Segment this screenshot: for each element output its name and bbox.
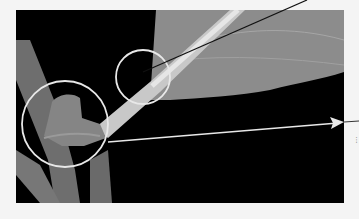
figure: ⋮ xyxy=(0,0,359,219)
petiole-leader-line xyxy=(143,0,307,72)
leader-extension xyxy=(344,121,359,122)
node-callout-circle xyxy=(22,81,108,167)
annotation-layer xyxy=(0,0,359,219)
edge-mark: ⋮ xyxy=(353,137,359,143)
petiole-base-callout-circle xyxy=(116,50,170,104)
node-leader-line xyxy=(108,123,338,142)
